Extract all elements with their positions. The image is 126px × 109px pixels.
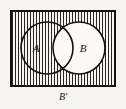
venn-diagram-canvas: A B B' [0,0,126,109]
label-set-a: A [32,42,40,54]
label-b-complement: B' [59,91,68,102]
label-set-b: B [80,42,87,54]
shaded-region-b-complement [11,11,115,86]
venn-diagram-figure: A B B' [0,0,126,109]
